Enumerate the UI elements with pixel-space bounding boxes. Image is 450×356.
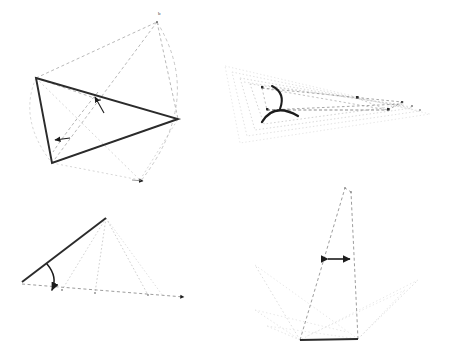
fig3-solid-ray: [22, 218, 106, 282]
fig1-arrow-markers: [55, 97, 143, 181]
fig3-vertex-dots: [61, 289, 149, 296]
figure-tall-triangle-width-marker: [255, 180, 450, 356]
fig4-solid-base: [300, 339, 358, 340]
figure-ray-rotation-angle-arc: [0, 195, 225, 315]
fig2-dashed-network: [244, 82, 412, 110]
fig1-solid-triangle: [36, 78, 178, 163]
fig4-dashed-triangle: [300, 188, 358, 340]
fig4-vertex-dots: [344, 187, 352, 193]
fig1-vertex-label-b: b: [158, 11, 161, 16]
fig4-dotted-fan: [255, 265, 418, 340]
fig3-dotted-fan: [62, 218, 163, 296]
figure-quadrilateral-rotation-construction: b: [0, 0, 225, 190]
fig2-dotted-nested-triangles: [225, 66, 430, 143]
figure-grid: b: [0, 0, 450, 356]
fig1-dashed-network: [36, 22, 178, 180]
fig3-dashed-baseline: [22, 284, 184, 297]
figure-nested-triangle-angle-arcs: [222, 48, 450, 173]
fig2-vertex-dots: [261, 86, 421, 111]
